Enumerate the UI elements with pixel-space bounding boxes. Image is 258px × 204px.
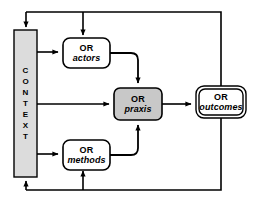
diagram-graphics bbox=[0, 0, 258, 204]
edge-outcomes-feedback-top bbox=[26, 12, 221, 86]
node-praxis[interactable] bbox=[114, 88, 162, 120]
node-actors[interactable] bbox=[63, 38, 110, 68]
node-outcomes[interactable] bbox=[199, 89, 243, 115]
node-methods[interactable] bbox=[63, 140, 110, 170]
edge-actors-to-praxis bbox=[110, 53, 138, 83]
diagram-canvas: C O N T E X T OR actors OR praxis OR met… bbox=[0, 0, 258, 204]
edge-methods-to-praxis bbox=[110, 125, 138, 155]
node-context[interactable] bbox=[14, 30, 37, 177]
